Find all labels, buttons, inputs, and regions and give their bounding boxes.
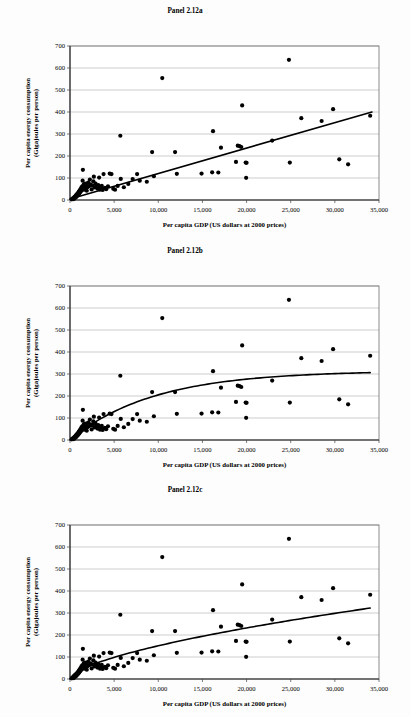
data-point bbox=[113, 188, 117, 192]
data-point bbox=[85, 429, 89, 433]
data-point bbox=[109, 412, 113, 416]
x-tick-label: 10,000 bbox=[149, 685, 168, 692]
x-tick-label: 25,000 bbox=[282, 685, 301, 692]
data-point bbox=[118, 134, 122, 138]
data-point bbox=[244, 176, 248, 180]
data-point bbox=[145, 180, 149, 184]
y-tick-label: 700 bbox=[55, 282, 66, 289]
data-point bbox=[81, 647, 85, 651]
data-point bbox=[270, 379, 274, 383]
data-point bbox=[150, 629, 154, 633]
x-tick-label: 35,000 bbox=[370, 446, 389, 453]
data-point bbox=[116, 663, 120, 667]
x-tick-label: 35,000 bbox=[370, 206, 389, 213]
data-point bbox=[135, 412, 139, 416]
x-tick-label: 20,000 bbox=[238, 206, 257, 213]
data-point bbox=[150, 390, 154, 394]
y-axis-title-line1: Per capita energy consumption bbox=[24, 557, 31, 647]
data-point bbox=[113, 428, 117, 432]
data-point bbox=[320, 359, 324, 363]
data-point bbox=[240, 582, 244, 586]
y-tick-label: 0 bbox=[62, 675, 66, 682]
data-point bbox=[288, 161, 292, 165]
data-point bbox=[211, 369, 215, 373]
data-point bbox=[152, 414, 156, 418]
data-point bbox=[211, 129, 215, 133]
data-point bbox=[216, 410, 220, 414]
data-point bbox=[118, 374, 122, 378]
x-tick-label: 5,000 bbox=[107, 206, 123, 213]
data-point bbox=[109, 651, 113, 655]
chart-b: 010020030040050060070005,00010,00015,000… bbox=[0, 240, 410, 479]
data-point bbox=[145, 420, 149, 424]
data-point bbox=[97, 654, 101, 658]
data-point bbox=[131, 656, 135, 660]
panel-2-12b: 010020030040050060070005,00010,00015,000… bbox=[0, 240, 410, 479]
x-tick-label: 15,000 bbox=[193, 685, 212, 692]
data-point bbox=[119, 656, 123, 660]
x-tick-label: 10,000 bbox=[149, 446, 168, 453]
x-tick-label: 5,000 bbox=[107, 446, 123, 453]
x-tick-label: 0 bbox=[68, 685, 72, 692]
data-point bbox=[116, 424, 120, 428]
data-point bbox=[346, 641, 350, 645]
data-point bbox=[211, 608, 215, 612]
data-point bbox=[337, 397, 341, 401]
data-point bbox=[234, 639, 238, 643]
data-point bbox=[109, 172, 113, 176]
y-tick-label: 500 bbox=[55, 326, 66, 333]
data-point bbox=[160, 555, 164, 559]
y-tick-label: 600 bbox=[55, 304, 66, 311]
data-point bbox=[81, 168, 85, 172]
y-tick-label: 600 bbox=[55, 64, 66, 71]
y-tick-label: 300 bbox=[55, 370, 66, 377]
data-point bbox=[244, 655, 248, 659]
data-point bbox=[216, 649, 220, 653]
panel-title: Panel 2.12c bbox=[168, 486, 204, 494]
data-point bbox=[288, 401, 292, 405]
data-point bbox=[331, 347, 335, 351]
data-point bbox=[145, 659, 149, 663]
data-point bbox=[234, 160, 238, 164]
y-tick-label: 0 bbox=[62, 196, 66, 203]
y-tick-label: 500 bbox=[55, 86, 66, 93]
data-point bbox=[160, 76, 164, 80]
data-point bbox=[210, 649, 214, 653]
data-point bbox=[97, 175, 101, 179]
data-point bbox=[234, 400, 238, 404]
x-tick-label: 20,000 bbox=[238, 685, 257, 692]
y-tick-label: 400 bbox=[55, 348, 66, 355]
data-point bbox=[126, 422, 130, 426]
chart-a: 010020030040050060070005,00010,00015,000… bbox=[0, 0, 410, 239]
data-point bbox=[337, 157, 341, 161]
y-axis-title-line1: Per capita energy consumption bbox=[24, 78, 31, 168]
data-point bbox=[199, 172, 203, 176]
y-tick-label: 700 bbox=[55, 42, 66, 49]
panel-2-12a: 010020030040050060070005,00010,00015,000… bbox=[0, 0, 410, 239]
data-point bbox=[299, 356, 303, 360]
x-axis-ticks: 05,00010,00015,00020,00025,00030,00035,0… bbox=[68, 200, 388, 213]
data-point bbox=[199, 651, 203, 655]
data-point bbox=[173, 150, 177, 154]
data-point bbox=[135, 172, 139, 176]
x-axis-ticks: 05,00010,00015,00020,00025,00030,00035,0… bbox=[68, 440, 388, 453]
data-point bbox=[152, 174, 156, 178]
x-tick-label: 25,000 bbox=[282, 206, 301, 213]
y-tick-label: 600 bbox=[55, 543, 66, 550]
panel-title: Panel 2.12b bbox=[167, 247, 203, 255]
y-tick-label: 200 bbox=[55, 392, 66, 399]
y-tick-label: 700 bbox=[55, 521, 66, 528]
data-point bbox=[85, 668, 89, 672]
x-tick-label: 35,000 bbox=[370, 685, 389, 692]
data-point bbox=[270, 139, 274, 143]
data-point bbox=[119, 177, 123, 181]
data-point bbox=[210, 170, 214, 174]
data-point bbox=[240, 103, 244, 107]
x-tick-label: 30,000 bbox=[326, 685, 345, 692]
data-point bbox=[106, 424, 110, 428]
chart-c: 010020030040050060070005,00010,00015,000… bbox=[0, 479, 410, 717]
x-tick-label: 10,000 bbox=[149, 206, 168, 213]
plot-background bbox=[70, 286, 379, 440]
data-point bbox=[288, 640, 292, 644]
data-point bbox=[331, 107, 335, 111]
